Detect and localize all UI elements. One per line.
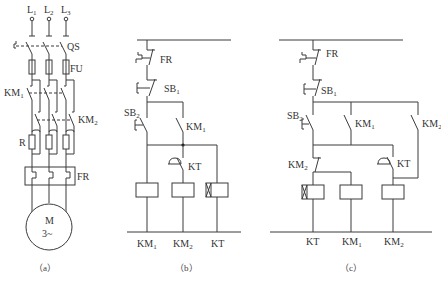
caption-b: （b）	[175, 263, 198, 273]
label-fr: FR	[77, 171, 90, 182]
coil-kt-b	[206, 183, 228, 197]
coil-kt-c	[302, 185, 324, 199]
label-r: R	[19, 137, 26, 148]
label-coil-kt-c: KT	[306, 236, 319, 247]
km2-nc-interlock-icon	[313, 145, 321, 185]
label-l1: L1	[27, 4, 37, 17]
label-km2: KM2	[78, 114, 98, 127]
motor-icon	[26, 204, 72, 250]
label-motor: M	[45, 215, 54, 226]
km1-main-contacts-icon	[27, 86, 66, 135]
sb2-start-button-icon	[302, 115, 313, 145]
label-km2-nc-c: KM2	[288, 159, 308, 172]
kt-timed-contact-icon	[377, 145, 393, 185]
label-fr-c: FR	[326, 48, 339, 59]
circuit-diagrams: L1 L2 L3 QS	[0, 0, 441, 281]
coil-km1-c	[340, 185, 362, 199]
qs-switch-icon	[14, 41, 66, 60]
km2-contacts-icon	[35, 112, 74, 132]
label-fu: FU	[70, 63, 84, 74]
label-coil-km1-c: KM1	[342, 236, 362, 249]
fr-nc-contact-icon	[300, 49, 321, 80]
sb1-stop-button-icon	[137, 79, 157, 102]
fuse-icon	[29, 60, 69, 74]
label-l3: L3	[61, 4, 71, 17]
thermal-relay-icon	[25, 167, 75, 185]
fr-nc-contact-icon	[136, 49, 155, 80]
km1-holding-contact-icon	[344, 115, 351, 145]
label-l2: L2	[44, 4, 54, 17]
control-circuit-b: FR SB1 SB2 KM1	[124, 40, 241, 273]
label-kt-contact-c: KT	[397, 158, 410, 169]
sb1-stop-button-icon	[304, 79, 322, 102]
label-coil-km2-c: KM2	[384, 236, 404, 249]
kt-timed-contact-icon	[168, 145, 183, 183]
label-coil-km2-b: KM2	[173, 238, 193, 251]
label-sb2-c: SB2	[287, 110, 303, 123]
main-circuit-a: L1 L2 L3 QS	[4, 4, 98, 273]
label-coil-km1-b: KM1	[137, 238, 157, 251]
label-qs: QS	[67, 41, 80, 52]
label-km1-contact-b: KM1	[186, 121, 206, 134]
label-kt-contact-b: KT	[188, 161, 201, 172]
sb2-start-button-icon	[135, 118, 147, 145]
coil-km2-c	[382, 185, 404, 199]
terminal-l1-icon	[30, 17, 34, 21]
label-coil-kt-b: KT	[211, 238, 224, 249]
label-sb1-b: SB1	[164, 83, 180, 96]
label-motor-phase: 3~	[42, 228, 53, 239]
resistor-icon	[29, 130, 74, 168]
terminal-l3-icon	[64, 17, 68, 21]
label-km1-contact-c: KM1	[355, 118, 375, 131]
label-sb2-b: SB2	[124, 107, 140, 120]
terminal-l2-icon	[47, 17, 51, 21]
label-fr-b: FR	[160, 54, 173, 65]
caption-a: （a）	[34, 263, 56, 273]
km1-holding-contact-icon	[176, 118, 183, 145]
coil-km2-b	[172, 183, 194, 197]
coil-km1-b	[136, 183, 158, 197]
label-km2-contact-c: KM2	[422, 118, 441, 131]
control-circuit-c: FR SB1 SB2 KM1	[270, 40, 441, 273]
caption-c: （c）	[340, 263, 362, 273]
label-km1: KM1	[4, 87, 24, 100]
label-sb1-c: SB1	[321, 85, 337, 98]
